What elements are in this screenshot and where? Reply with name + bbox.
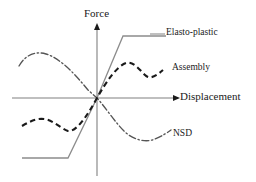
x-axis-label: Displacement — [180, 91, 240, 102]
curve-label-elasto-plastic: Elasto-plastic — [166, 28, 218, 38]
force-displacement-figure: Force Displacement Elasto-plastic Assemb… — [0, 0, 256, 182]
elasto-plastic-path — [22, 36, 166, 158]
curve-label-nsd: NSD — [173, 129, 192, 139]
curve-elasto-plastic — [22, 36, 166, 158]
nsd-path — [19, 53, 171, 141]
assembly-path — [22, 63, 163, 131]
curve-nsd — [19, 53, 171, 141]
curve-assembly — [22, 63, 163, 131]
y-axis-label: Force — [84, 8, 109, 19]
y-axis-arrowhead — [94, 23, 100, 30]
x-axis-arrowhead — [173, 95, 180, 101]
curve-label-assembly: Assembly — [172, 63, 210, 73]
